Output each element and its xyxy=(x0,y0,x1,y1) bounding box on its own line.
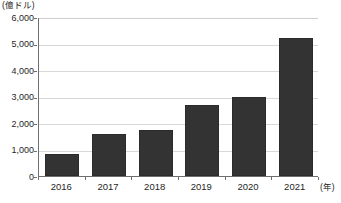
y-axis-tick-mark xyxy=(34,18,37,19)
x-axis-tick-label: 2021 xyxy=(272,182,318,192)
bar-series xyxy=(39,18,318,176)
y-axis-tick-label: 4,000 xyxy=(0,67,34,76)
bar-2021 xyxy=(279,38,313,176)
x-axis-tick-label: 2018 xyxy=(132,182,178,192)
bar-chart: (億ドル) 01,0002,0003,0004,0005,0006,000 20… xyxy=(0,0,341,203)
x-axis-tick-mark xyxy=(131,177,132,180)
y-axis-tick-label: 3,000 xyxy=(0,93,34,102)
y-axis-unit-label: (億ドル) xyxy=(2,0,35,11)
bar-2019 xyxy=(185,105,219,177)
x-axis-tick-label: 2016 xyxy=(38,182,84,192)
bar-slot xyxy=(132,18,179,176)
y-axis-tick-label: 6,000 xyxy=(0,14,34,23)
x-axis-tick-mark xyxy=(85,177,86,180)
y-axis-tick-mark xyxy=(34,98,37,99)
x-axis-tick-label: 2020 xyxy=(225,182,271,192)
y-axis-tick-label: 2,000 xyxy=(0,120,34,129)
x-axis-tick-label: 2017 xyxy=(85,182,131,192)
x-axis-tick-mark xyxy=(318,177,319,180)
x-axis-tick-mark xyxy=(225,177,226,180)
y-axis-tick-mark xyxy=(34,71,37,72)
x-axis-tick-mark xyxy=(271,177,272,180)
x-axis-tick-label: 2019 xyxy=(178,182,224,192)
y-axis-tick-label: 0 xyxy=(0,173,34,182)
bar-slot xyxy=(179,18,226,176)
y-axis-tick-label: 1,000 xyxy=(0,146,34,155)
y-axis-tick-label: 5,000 xyxy=(0,40,34,49)
y-axis-tick-mark xyxy=(34,177,37,178)
bar-slot xyxy=(86,18,133,176)
x-axis-tick-mark xyxy=(178,177,179,180)
x-axis-tick-mark xyxy=(38,177,39,180)
bar-slot xyxy=(226,18,273,176)
bar-2016 xyxy=(45,154,79,177)
y-axis-tick-mark xyxy=(34,45,37,46)
plot-area xyxy=(38,18,318,177)
bar-slot xyxy=(272,18,319,176)
bar-2018 xyxy=(139,130,173,176)
x-axis-unit-label: (年) xyxy=(320,182,335,192)
y-axis-tick-mark xyxy=(34,151,37,152)
y-axis-tick-mark xyxy=(34,124,37,125)
bar-2020 xyxy=(232,97,266,177)
bar-slot xyxy=(39,18,86,176)
bar-2017 xyxy=(92,134,126,176)
